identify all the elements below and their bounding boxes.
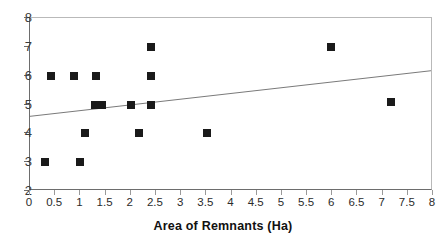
x-axis-tick-label: 8	[429, 197, 435, 209]
data-point	[92, 72, 100, 80]
data-series	[30, 18, 431, 189]
y-axis-tick-label: 7	[12, 39, 32, 52]
y-axis-tick-label: 3	[12, 155, 32, 168]
data-point	[327, 43, 335, 51]
plot-area	[29, 17, 432, 190]
data-point	[81, 129, 89, 137]
data-point	[70, 72, 78, 80]
data-point	[203, 129, 211, 137]
x-axis-tick-label: 7.5	[399, 197, 415, 209]
x-axis-tick	[29, 190, 30, 195]
x-axis-tick-label: 6	[328, 197, 334, 209]
x-axis-title: Area of Remnants (Ha)	[0, 219, 446, 233]
data-point	[135, 129, 143, 137]
data-point	[76, 158, 84, 166]
x-axis-tick	[79, 190, 80, 195]
x-axis-tick-label: 5.5	[298, 197, 314, 209]
x-axis-tick	[432, 190, 433, 195]
data-point	[147, 43, 155, 51]
y-axis-tick-label: 6	[12, 68, 32, 81]
x-axis-tick-label: 2.5	[147, 197, 163, 209]
y-axis-tick-label: 8	[12, 11, 32, 24]
x-axis-tick	[130, 190, 131, 195]
data-point	[98, 101, 106, 109]
x-axis-tick	[105, 190, 106, 195]
x-axis-tick-label: 3	[177, 197, 183, 209]
x-axis-tick-label: 1.5	[97, 197, 113, 209]
x-axis-tick-label: 4	[227, 197, 233, 209]
x-axis-tick-label: 0.5	[46, 197, 62, 209]
x-axis-tick-label: 3.5	[197, 197, 213, 209]
x-axis-tick	[256, 190, 257, 195]
x-axis-tick-label: 6.5	[348, 197, 364, 209]
x-axis-tick	[180, 190, 181, 195]
x-axis-tick-label: 1	[76, 197, 82, 209]
x-axis-tick	[407, 190, 408, 195]
x-axis-tick	[155, 190, 156, 195]
x-axis-tick	[356, 190, 357, 195]
x-axis-tick	[205, 190, 206, 195]
x-axis-tick	[382, 190, 383, 195]
x-axis-tick	[306, 190, 307, 195]
data-point	[147, 72, 155, 80]
x-axis-tick-label: 7	[378, 197, 384, 209]
x-axis-tick-label: 2	[127, 197, 133, 209]
x-axis-tick	[281, 190, 282, 195]
y-axis-tick-label: 5	[12, 97, 32, 110]
x-axis-tick-label: 0	[26, 197, 32, 209]
data-point	[387, 98, 395, 106]
x-axis-tick	[231, 190, 232, 195]
x-axis-tick-label: 5	[278, 197, 284, 209]
data-point	[127, 101, 135, 109]
x-axis-tick	[54, 190, 55, 195]
data-point	[47, 72, 55, 80]
data-point	[147, 101, 155, 109]
y-axis-tick-label: 4	[12, 126, 32, 139]
scatter-chart: Area of Remnants (Ha) 234567800.511.522.…	[0, 0, 446, 242]
x-axis-tick-label: 4.5	[248, 197, 264, 209]
data-point	[41, 158, 49, 166]
x-axis-tick	[331, 190, 332, 195]
